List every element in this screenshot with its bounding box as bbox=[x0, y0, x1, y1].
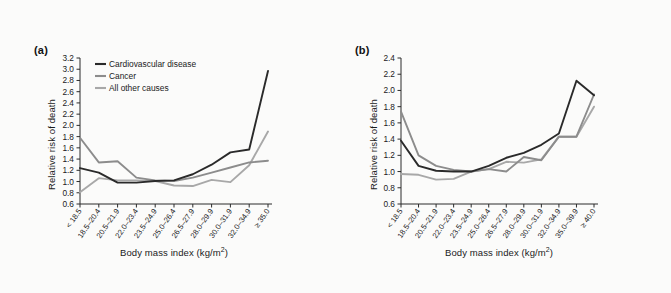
panel-b-plot: 2.42.22.01.81.61.41.21.00.80.6< 18.518.5… bbox=[335, 0, 671, 293]
y-tick-label: 1.6 bbox=[62, 143, 74, 153]
y-tick-label: 0.6 bbox=[62, 199, 74, 209]
y-tick-label: 1.4 bbox=[62, 154, 74, 164]
y-tick-label: 2.4 bbox=[383, 53, 395, 63]
y-tick-label: 2.6 bbox=[62, 87, 74, 97]
x-tick-label: ≥ 40.0 bbox=[578, 207, 597, 229]
y-tick-label: 1.2 bbox=[383, 150, 395, 160]
legend-label-1: Cancer bbox=[109, 71, 136, 81]
y-tick-label: 2.2 bbox=[62, 109, 74, 119]
y-tick-label: 2.8 bbox=[62, 75, 74, 85]
figure-container: (a) Relative risk of death Body mass ind… bbox=[0, 0, 671, 293]
y-tick-label: 1.8 bbox=[62, 132, 74, 142]
y-tick-label: 2.0 bbox=[62, 120, 74, 130]
y-tick-label: 1.0 bbox=[62, 177, 74, 187]
panel-b: (b) Relative risk of death Body mass ind… bbox=[335, 0, 671, 293]
series-line-cancer bbox=[401, 95, 594, 172]
y-tick-label: 2.2 bbox=[383, 69, 395, 79]
y-tick-label: 2.4 bbox=[62, 98, 74, 108]
panel-a-plot: 3.23.02.82.62.42.22.01.81.61.41.21.00.80… bbox=[0, 0, 336, 293]
y-tick-label: 1.4 bbox=[383, 134, 395, 144]
x-tick-label: ≥ 35.0 bbox=[252, 207, 271, 229]
y-tick-label: 0.6 bbox=[383, 199, 395, 209]
y-tick-label: 2.0 bbox=[383, 85, 395, 95]
y-tick-label: 1.8 bbox=[383, 102, 395, 112]
panel-a: (a) Relative risk of death Body mass ind… bbox=[0, 0, 336, 293]
y-tick-label: 1.0 bbox=[383, 167, 395, 177]
y-tick-label: 3.0 bbox=[62, 64, 74, 74]
y-tick-label: 1.6 bbox=[383, 118, 395, 128]
y-tick-label: 3.2 bbox=[62, 53, 74, 63]
y-tick-label: 1.2 bbox=[62, 165, 74, 175]
y-tick-label: 0.8 bbox=[62, 188, 74, 198]
series-line-cardiovascular-disease bbox=[401, 81, 594, 172]
legend-label-2: All other causes bbox=[109, 83, 169, 93]
legend-label-0: Cardiovascular disease bbox=[109, 59, 196, 69]
y-tick-label: 0.8 bbox=[383, 183, 395, 193]
